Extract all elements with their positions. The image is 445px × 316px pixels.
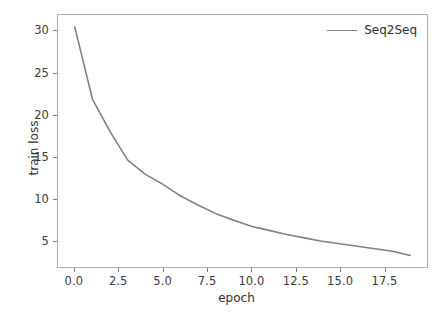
x-tick-mark: [385, 268, 386, 272]
x-axis-label-wrap: epoch: [0, 291, 445, 305]
x-tick-mark: [251, 268, 252, 272]
x-tick-mark: [118, 268, 119, 272]
x-tick-mark: [340, 268, 341, 272]
x-tick-label: 12.5: [283, 274, 309, 288]
x-tick-mark: [74, 268, 75, 272]
x-tick-mark: [163, 268, 164, 272]
legend-label-seq2seq: Seq2Seq: [364, 23, 417, 37]
series-plot: [58, 15, 427, 267]
x-tick-label: 17.5: [371, 274, 397, 288]
x-tick-label: 2.5: [109, 274, 128, 288]
x-tick-label: 7.5: [198, 274, 217, 288]
x-tick-label: 15.0: [327, 274, 353, 288]
chart-figure: train loss 0.02.55.07.510.012.515.017.55…: [0, 0, 445, 316]
y-tick-label: 15: [34, 150, 49, 164]
y-axis-label: train loss: [27, 88, 41, 208]
plot-area: Seq2Seq: [57, 14, 428, 268]
y-tick-label: 5: [42, 234, 49, 248]
x-tick-label: 0.0: [65, 274, 84, 288]
series-line-seq2seq: [75, 27, 410, 255]
y-tick-label: 25: [34, 66, 49, 80]
x-tick-mark: [296, 268, 297, 272]
y-tick-label: 10: [34, 192, 49, 206]
legend-line-sample-seq2seq: [327, 30, 357, 31]
y-tick-label: 20: [34, 108, 49, 122]
x-tick-mark: [207, 268, 208, 272]
x-tick-label: 10.0: [238, 274, 264, 288]
y-tick-label: 30: [34, 23, 49, 37]
legend: Seq2Seq: [323, 21, 421, 39]
x-tick-label: 5.0: [153, 274, 172, 288]
x-axis-label: epoch: [218, 291, 255, 305]
